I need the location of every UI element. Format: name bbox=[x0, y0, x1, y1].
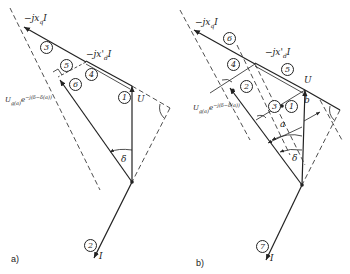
label-jxq-a: −jxqI bbox=[24, 14, 47, 25]
panel-label-b: b) bbox=[196, 258, 204, 268]
label-delta-a: δ bbox=[121, 155, 126, 164]
panel-label-a: a) bbox=[11, 254, 19, 264]
marker-6-a: 6 bbox=[69, 78, 82, 91]
panel-a-diagram bbox=[10, 8, 170, 258]
marker-7-b: 7 bbox=[256, 240, 269, 253]
marker-5-b: 5 bbox=[281, 63, 294, 76]
label-jxq-b: −jxqI bbox=[195, 18, 218, 29]
marker-5-a: 5 bbox=[60, 59, 73, 72]
label-Ug-b: Ug(a)e−j(δ−δ(a)) bbox=[193, 103, 240, 114]
label-delta-b: δ bbox=[292, 154, 297, 163]
label-I-a: I bbox=[99, 252, 103, 261]
marker-4-b: 4 bbox=[227, 58, 240, 71]
phasor-diagram-figure: −jxqI −jx'dI U Ug(a)e−j(δ−δ(a)) δ I 3 5 … bbox=[0, 0, 350, 274]
label-jxd-b: −jx'dI bbox=[265, 48, 290, 59]
panel-b-diagram bbox=[180, 10, 342, 260]
marker-6-b: 6 bbox=[223, 32, 236, 45]
label-U-a: U bbox=[137, 95, 145, 104]
label-b-dim-b: b bbox=[304, 96, 310, 105]
label-jxd-a: −jx'dI bbox=[86, 50, 111, 61]
marker-3-a: 3 bbox=[40, 41, 53, 54]
marker-2-a: 2 bbox=[84, 239, 97, 252]
label-a-b: a bbox=[280, 120, 285, 129]
marker-4-a: 4 bbox=[85, 68, 98, 81]
marker-1-a: 1 bbox=[118, 91, 131, 104]
marker-2-b: 2 bbox=[240, 80, 253, 93]
label-I-b: I bbox=[270, 254, 274, 263]
marker-3-b: 3 bbox=[268, 100, 281, 113]
marker-1-b: 1 bbox=[285, 100, 298, 113]
label-U-b: U bbox=[304, 76, 312, 85]
phasor-diagram-lines bbox=[0, 0, 350, 274]
label-Ug-a: Ug(a)e−j(δ−δ(a)) bbox=[5, 95, 52, 106]
